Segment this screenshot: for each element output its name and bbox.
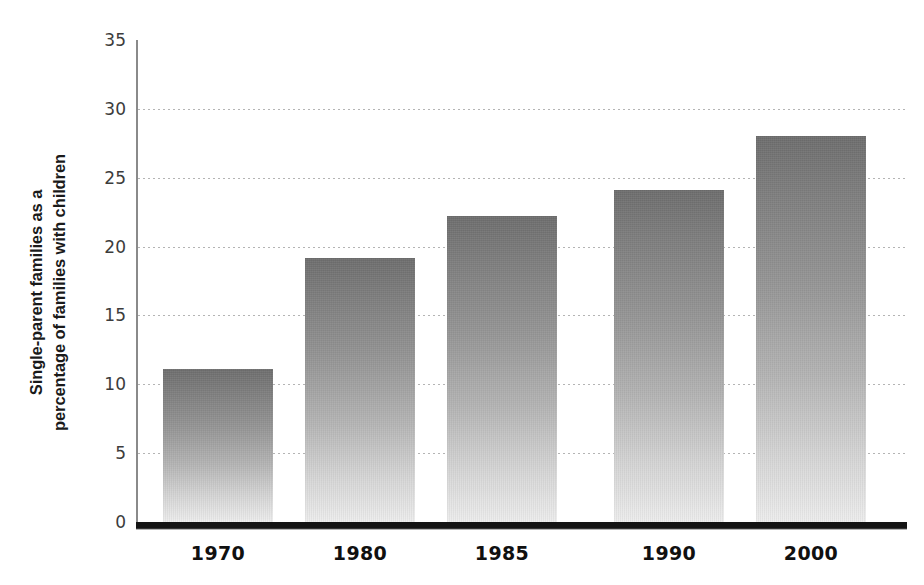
y-axis-tick-label: 35	[104, 30, 126, 50]
bar-1990	[614, 190, 724, 522]
bar-chart-figure: Single-parent families as a percentage o…	[0, 0, 924, 585]
y-axis-tick-label: 5	[115, 443, 126, 463]
y-axis-tick-label: 20	[104, 237, 126, 257]
x-axis-tick-label: 1985	[475, 542, 529, 564]
y-axis-tick-label: 15	[104, 305, 126, 325]
y-axis-tick-label: 25	[104, 168, 126, 188]
bar-1970	[163, 369, 273, 522]
x-axis-baseline	[136, 522, 907, 529]
bar-1985	[447, 216, 557, 522]
gridline	[138, 109, 905, 110]
y-axis-tick-label: 30	[104, 99, 126, 119]
y-axis-title: Single-parent families as a percentage o…	[0, 0, 96, 585]
plot-area: 05101520253035 19701980198519902000	[136, 40, 905, 522]
y-axis-spine	[136, 40, 138, 522]
y-axis-title-line-1: Single-parent families as a	[25, 190, 48, 395]
x-axis-tick-label: 1980	[333, 542, 387, 564]
x-axis-tick-label: 2000	[784, 542, 838, 564]
bar-1980	[305, 258, 415, 522]
x-axis-tick-label: 1970	[191, 542, 245, 564]
bar-2000	[756, 136, 866, 522]
y-axis-tick-label: 0	[115, 512, 126, 532]
y-axis-title-line-2: percentage of families with children	[48, 154, 71, 431]
y-axis-tick-label: 10	[104, 374, 126, 394]
x-axis-tick-label: 1990	[642, 542, 696, 564]
